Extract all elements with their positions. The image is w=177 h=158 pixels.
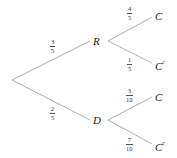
prob-root-R: 35 (50, 39, 55, 54)
node-D-C: C (155, 92, 162, 103)
node-R: R (93, 36, 100, 47)
prob-D-C: 310 (126, 88, 133, 103)
prob-D-Cc: 710 (126, 137, 133, 152)
complement-sup: c (162, 140, 165, 146)
tree-lines (0, 0, 177, 158)
prob-R-C: 45 (127, 6, 132, 21)
node-D-Cc: Cc (155, 139, 165, 153)
node-R-C: C (155, 11, 162, 22)
prob-root-D: 25 (50, 106, 55, 121)
complement-sup: c (162, 59, 165, 65)
prob-R-Cc: 15 (127, 57, 132, 72)
node-R-Cc: Cc (155, 58, 165, 72)
node-D: D (93, 115, 101, 126)
